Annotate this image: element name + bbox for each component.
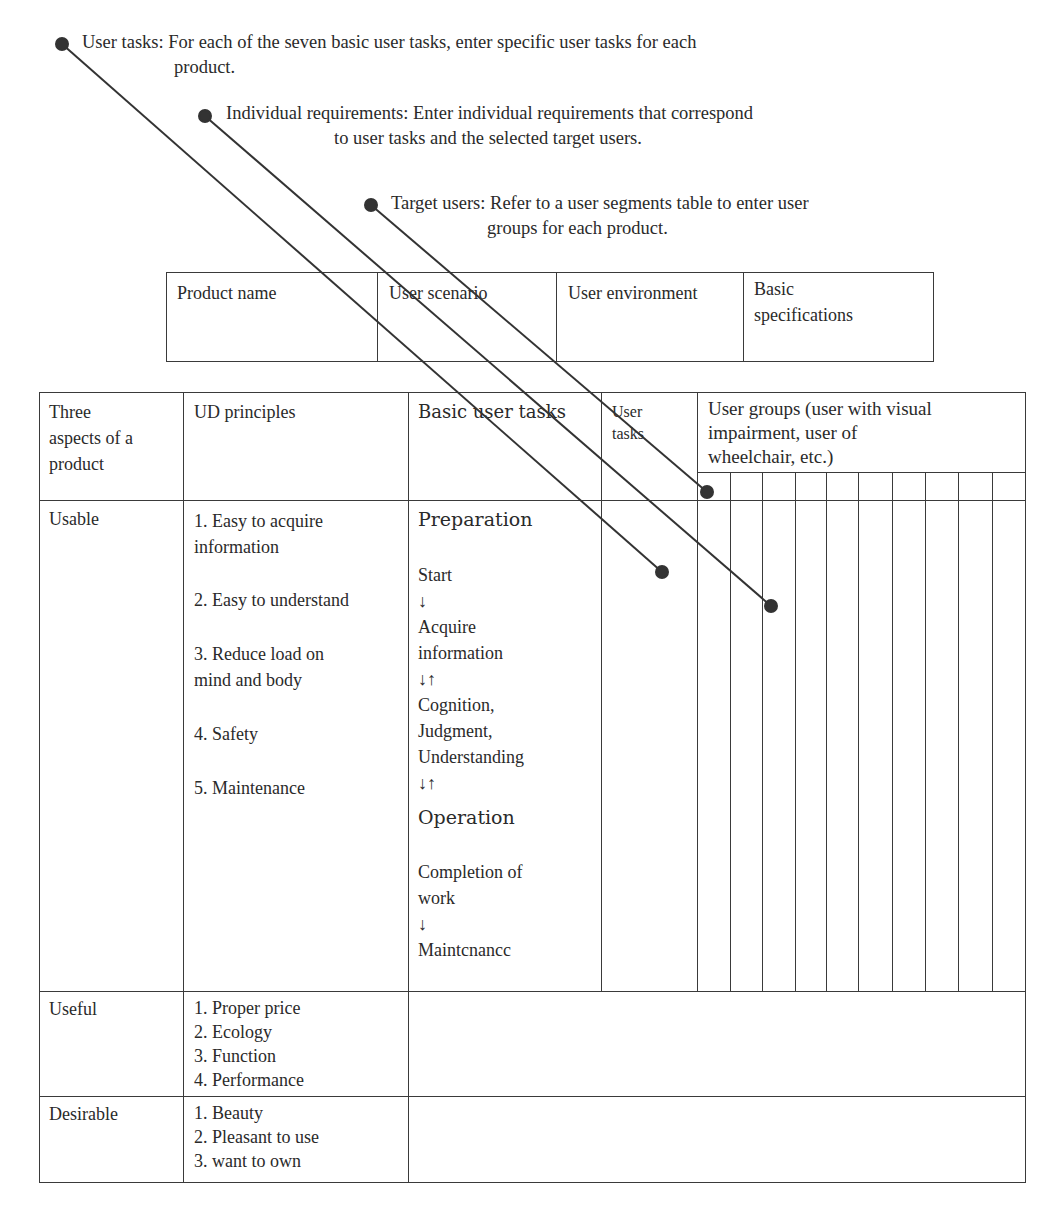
divider xyxy=(556,272,557,362)
principle-item: 4. Safety xyxy=(194,721,258,747)
principle-item: 2. Easy to understand xyxy=(194,587,349,613)
principle-item: 5. Maintenance xyxy=(194,775,305,801)
ud-principles-header: UD principles xyxy=(194,399,295,425)
ud-matrix-table xyxy=(39,392,1026,1183)
task-flow-upper: Start ↓ Acquire information ↓↑ Cognition… xyxy=(418,562,524,796)
annotation-text: Target users: Refer to a user segments t… xyxy=(391,191,809,216)
desirable-principles: 1. Beauty 2. Pleasant to use 3. want to … xyxy=(194,1101,319,1173)
divider xyxy=(39,991,1026,992)
principle-item: 3. Reduce load on mind and body xyxy=(194,641,324,693)
user-group-column xyxy=(730,472,731,991)
annotation-target-users: Target users: Refer to a user segments t… xyxy=(391,191,809,241)
user-tasks-header: User tasks xyxy=(612,401,644,445)
aspect-desirable: Desirable xyxy=(49,1101,118,1127)
user-group-column xyxy=(992,472,993,991)
annotation-text: to user tasks and the selected target us… xyxy=(226,126,753,151)
divider xyxy=(377,272,378,362)
divider xyxy=(39,1096,1026,1097)
task-preparation: Preparation xyxy=(418,505,532,533)
divider xyxy=(697,472,1026,473)
user-environment-header: User environment xyxy=(568,280,697,306)
divider xyxy=(601,392,602,991)
aspect-useful: Useful xyxy=(49,996,97,1022)
user-group-column xyxy=(892,472,893,991)
user-group-column xyxy=(762,472,763,991)
basic-user-tasks-header: Basic user tasks xyxy=(418,398,566,426)
annotation-text: Individual requirements: Enter individua… xyxy=(226,101,753,126)
user-group-column xyxy=(795,472,796,991)
user-scenario-header: User scenario xyxy=(389,280,487,306)
divider xyxy=(39,500,1026,501)
useful-principles: 1. Proper price 2. Ecology 3. Function 4… xyxy=(194,996,304,1092)
product-name-header: Product name xyxy=(177,280,276,306)
aspect-usable: Usable xyxy=(49,506,99,532)
divider xyxy=(183,392,184,1183)
divider xyxy=(697,392,698,991)
basic-specifications-header: Basic specifications xyxy=(754,276,853,328)
task-flow-lower: Completion of work ↓ Maintcnancc xyxy=(418,859,523,963)
aspects-header: Three aspects of a product xyxy=(49,399,133,477)
dot-icon xyxy=(56,38,68,50)
divider xyxy=(743,272,744,362)
annotation-individual-requirements: Individual requirements: Enter individua… xyxy=(226,101,753,151)
annotation-user-tasks: User tasks: For each of the seven basic … xyxy=(82,30,696,80)
divider xyxy=(408,392,409,1183)
dot-icon xyxy=(199,110,211,122)
user-group-column xyxy=(826,472,827,991)
user-groups-header: User groups (user with visual impairment… xyxy=(708,397,932,469)
dot-icon xyxy=(365,199,377,211)
annotation-text: product. xyxy=(82,55,696,80)
principle-item: 1. Easy to acquire information xyxy=(194,508,323,560)
annotation-text: groups for each product. xyxy=(391,216,809,241)
user-group-column xyxy=(958,472,959,991)
annotation-text: User tasks: For each of the seven basic … xyxy=(82,30,696,55)
task-operation: Operation xyxy=(418,803,515,831)
user-group-column xyxy=(925,472,926,991)
user-group-column xyxy=(858,472,859,991)
